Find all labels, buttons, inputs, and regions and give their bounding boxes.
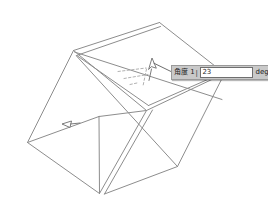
angle-value-text: 23 bbox=[201, 69, 212, 76]
guide-vertical-drop bbox=[143, 69, 147, 86]
face-arrow-head bbox=[62, 121, 72, 128]
box-edges bbox=[28, 23, 225, 195]
dimension-label: 角度 1 bbox=[172, 66, 196, 79]
angle-unit-label: degr bbox=[253, 66, 268, 79]
dimension-input-tooltip[interactable]: 角度 1 | 23 degr bbox=[171, 65, 268, 80]
top-inset-edge-b bbox=[78, 56, 149, 106]
angle-value-input[interactable]: 23 bbox=[200, 67, 253, 78]
rotate-handle-stem bbox=[149, 69, 152, 81]
guide-short-tick bbox=[130, 83, 137, 85]
top-inset-edge-a bbox=[77, 27, 161, 56]
interior-edge-b bbox=[99, 111, 147, 117]
wireframe-model[interactable] bbox=[0, 0, 268, 219]
vertical-edge-front-inner bbox=[105, 110, 153, 194]
top-face-edge-front-left bbox=[74, 51, 147, 111]
bottom-edge-back-front bbox=[99, 117, 100, 194]
bottom-edge-front-right bbox=[105, 167, 178, 195]
top-face-edge-left-up bbox=[74, 23, 160, 51]
interior-edge-a bbox=[77, 56, 178, 166]
bottom-edge-left-front bbox=[28, 143, 100, 194]
cad-drawing-canvas[interactable]: 角度 1 | 23 degr bbox=[0, 0, 268, 219]
